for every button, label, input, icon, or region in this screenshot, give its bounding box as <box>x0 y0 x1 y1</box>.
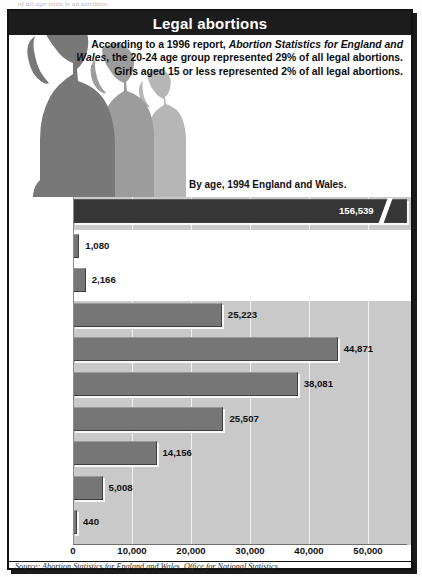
intro-paragraph: According to a 1996 report, Abortion Sta… <box>71 38 403 78</box>
bar-30-34[interactable] <box>73 407 223 431</box>
bar-15[interactable] <box>73 268 86 292</box>
silhouette-small <box>139 69 186 200</box>
source-note: Source: Abortion Statistics for England … <box>15 562 278 571</box>
bar-value-label: 5,008 <box>109 482 133 493</box>
bar-value-label: 1,080 <box>85 240 109 251</box>
infographic-page: of all age units is an attribute. <box>0 0 422 577</box>
bar-value-label: 440 <box>83 516 99 527</box>
intro-text-part2: , the 20-24 age group represented 29% of… <box>106 52 403 76</box>
row-highlight-strip <box>73 264 411 301</box>
bar-value-label: 2,166 <box>92 274 116 285</box>
bar-value-label: 156,539 <box>339 205 374 216</box>
x-tick-0: 0 <box>70 545 75 556</box>
page-title: Legal abortions <box>153 15 268 32</box>
y-axis-line <box>73 197 74 545</box>
bar-value-label: 38,081 <box>304 378 333 389</box>
bar-25-29[interactable] <box>73 372 298 396</box>
bar-chart: All ages156,539Under 151,080152,16616-19… <box>9 197 411 545</box>
bar-value-label: 25,507 <box>229 413 258 424</box>
category-label-column <box>9 197 73 545</box>
x-tick-50000: 50,000 <box>353 545 382 556</box>
clipped-page-text: of all age units is an attribute. <box>18 0 218 9</box>
x-tick-10000: 10,000 <box>117 545 146 556</box>
bar-35-39[interactable] <box>73 441 157 465</box>
bar-value-label: 25,223 <box>228 309 257 320</box>
bar-40-44[interactable] <box>73 476 103 500</box>
x-tick-20000: 20,000 <box>176 545 205 556</box>
intro-text-part1: According to a 1996 report, <box>91 39 228 50</box>
bar-value-label: 14,156 <box>163 447 192 458</box>
infographic-frame: Legal abortions According to a 1996 repo… <box>7 9 413 570</box>
infographic-title-bar: Legal abortions <box>9 11 411 35</box>
chart-subtitle: By age, 1994 England and Wales. <box>189 179 403 190</box>
bar-20-24[interactable] <box>73 337 338 361</box>
bar-value-label: 44,871 <box>344 343 373 354</box>
x-tick-40000: 40,000 <box>294 545 323 556</box>
x-tick-30000: 30,000 <box>235 545 264 556</box>
bar-16-19[interactable] <box>73 303 222 327</box>
x-axis: 010,00020,00030,00040,00050,000 <box>9 545 411 563</box>
row-highlight-strip <box>73 230 411 267</box>
